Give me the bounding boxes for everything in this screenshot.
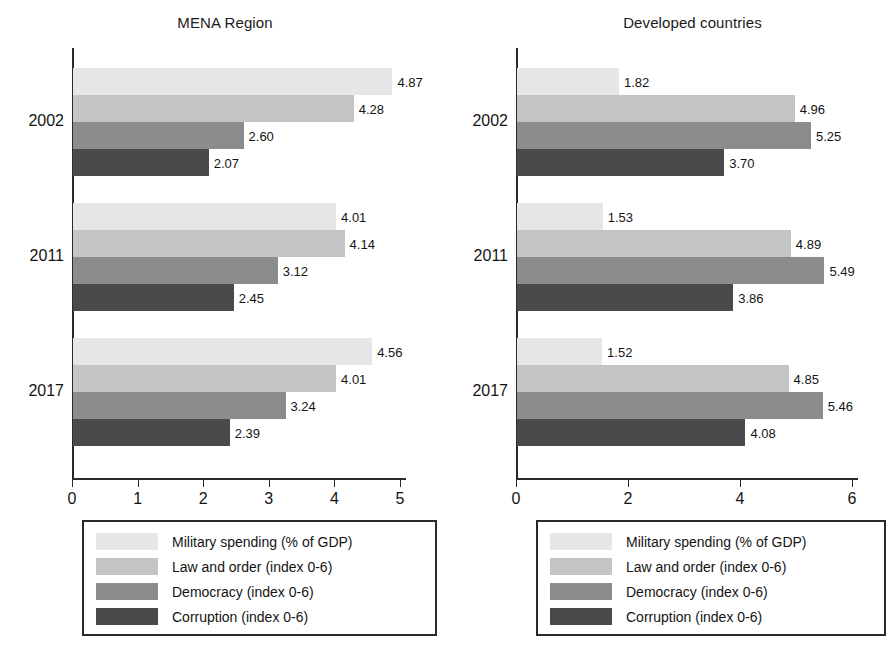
legend-label: Democracy (index 0-6): [172, 585, 314, 599]
bar: [73, 284, 234, 311]
legend-developed: Military spending (% of GDP)Law and orde…: [536, 520, 886, 636]
bar-value-label: 2.07: [214, 157, 239, 170]
bar-value-label: 2.60: [249, 130, 274, 143]
legend-label: Democracy (index 0-6): [626, 585, 768, 599]
x-axis-tick-label: 4: [322, 490, 346, 508]
bar: [517, 203, 603, 230]
bar-value-label: 1.53: [608, 211, 633, 224]
y-axis-category-label: 2011: [4, 247, 64, 265]
bar: [517, 149, 724, 176]
bar: [517, 95, 795, 122]
x-axis-tick: [269, 480, 270, 487]
legend-item: Law and order (index 0-6): [550, 554, 874, 579]
x-axis-tick: [852, 480, 853, 487]
bar-value-label: 4.08: [750, 427, 775, 440]
bar: [517, 365, 789, 392]
bar-value-label: 4.85: [794, 373, 819, 386]
bar: [517, 392, 823, 419]
legend-item: Democracy (index 0-6): [96, 579, 425, 604]
bar-value-label: 3.24: [291, 400, 316, 413]
legend-swatch: [550, 533, 612, 550]
x-axis-tick: [516, 480, 517, 487]
x-axis-tick-label: 2: [616, 490, 640, 508]
bar-value-label: 4.14: [350, 238, 375, 251]
bar-value-label: 4.01: [341, 373, 366, 386]
bar: [73, 122, 244, 149]
chart-panel-developed: Developed countries 024620021.824.965.25…: [440, 0, 889, 669]
bar: [517, 419, 745, 446]
x-axis-tick-label: 5: [388, 490, 412, 508]
legend-item: Democracy (index 0-6): [550, 579, 874, 604]
bar: [73, 149, 209, 176]
chart-panel-mena: MENA Region 01234520024.874.282.602.0720…: [0, 0, 470, 669]
y-axis-category-label: 2017: [448, 382, 508, 400]
x-axis-tick: [138, 480, 139, 487]
bar-value-label: 4.28: [359, 103, 384, 116]
bar-value-label: 3.12: [283, 265, 308, 278]
bar: [517, 230, 791, 257]
bar: [517, 257, 824, 284]
x-axis-tick-label: 0: [504, 490, 528, 508]
x-axis-tick-label: 6: [840, 490, 864, 508]
bar: [517, 338, 602, 365]
bar: [73, 419, 230, 446]
legend-label: Law and order (index 0-6): [626, 560, 786, 574]
x-axis-tick: [628, 480, 629, 487]
x-axis-tick: [72, 480, 73, 487]
bar: [517, 122, 811, 149]
x-axis-tick-label: 0: [60, 490, 84, 508]
legend-mena: Military spending (% of GDP)Law and orde…: [82, 520, 437, 636]
legend-item: Law and order (index 0-6): [96, 554, 425, 579]
bar: [517, 284, 733, 311]
legend-label: Corruption (index 0-6): [172, 610, 308, 624]
bar-value-label: 4.87: [397, 76, 422, 89]
legend-label: Military spending (% of GDP): [172, 535, 353, 549]
legend-swatch: [96, 583, 158, 600]
bar: [73, 68, 392, 95]
bar: [517, 68, 619, 95]
y-axis-category-label: 2017: [4, 382, 64, 400]
y-axis-category-label: 2002: [4, 112, 64, 130]
legend-swatch: [96, 608, 158, 625]
legend-label: Corruption (index 0-6): [626, 610, 762, 624]
bar-value-label: 5.25: [816, 130, 841, 143]
bar-value-label: 3.70: [729, 157, 754, 170]
bar: [73, 95, 354, 122]
x-axis-tick-label: 2: [191, 490, 215, 508]
legend-swatch: [96, 558, 158, 575]
bar-value-label: 1.82: [624, 76, 649, 89]
bar: [73, 338, 372, 365]
x-axis-line: [516, 478, 858, 480]
bar-value-label: 5.49: [829, 265, 854, 278]
y-axis-category-label: 2002: [448, 112, 508, 130]
legend-swatch: [550, 558, 612, 575]
x-axis-tick: [740, 480, 741, 487]
y-axis-category-label: 2011: [448, 247, 508, 265]
legend-swatch: [96, 533, 158, 550]
bar-value-label: 4.89: [796, 238, 821, 251]
bar-value-label: 4.96: [800, 103, 825, 116]
x-axis-line: [72, 478, 406, 480]
legend-item: Military spending (% of GDP): [550, 529, 874, 554]
x-axis-tick: [400, 480, 401, 487]
bar-value-label: 2.39: [235, 427, 260, 440]
x-axis-tick: [203, 480, 204, 487]
legend-swatch: [550, 583, 612, 600]
legend-label: Military spending (% of GDP): [626, 535, 807, 549]
bar-value-label: 4.56: [377, 346, 402, 359]
legend-item: Corruption (index 0-6): [550, 604, 874, 629]
bar: [73, 392, 286, 419]
x-axis-tick-label: 3: [257, 490, 281, 508]
bar-value-label: 2.45: [239, 292, 264, 305]
legend-item: Corruption (index 0-6): [96, 604, 425, 629]
legend-swatch: [550, 608, 612, 625]
x-axis-tick-label: 1: [126, 490, 150, 508]
bar-value-label: 5.46: [828, 400, 853, 413]
legend-label: Law and order (index 0-6): [172, 560, 332, 574]
bar: [73, 230, 345, 257]
bar: [73, 203, 336, 230]
bar-value-label: 3.86: [738, 292, 763, 305]
x-axis-tick-label: 4: [728, 490, 752, 508]
bar: [73, 365, 336, 392]
x-axis-tick: [334, 480, 335, 487]
